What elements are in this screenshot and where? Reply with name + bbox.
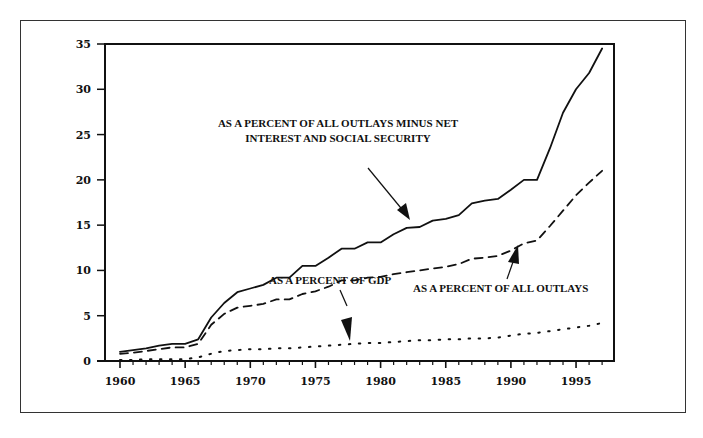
x-tick-label: 1970: [235, 375, 266, 388]
y-tick-label: 20: [76, 174, 92, 187]
y-tick-label: 10: [76, 264, 92, 277]
y-tick-label: 35: [76, 38, 91, 51]
annotation-solid-line2: INTEREST AND SOCIAL SECURITY: [245, 132, 430, 144]
y-tick-label: 25: [76, 129, 91, 142]
arrow-icon: [507, 245, 519, 279]
axes: 0510152025303519601965197019751980198519…: [76, 38, 614, 388]
plot-area: [105, 44, 614, 361]
x-tick-label: 1980: [365, 375, 396, 388]
x-tick-label: 1960: [105, 375, 136, 388]
line-chart: 0510152025303519601965197019751980198519…: [0, 0, 703, 438]
y-tick-label: 0: [83, 355, 91, 368]
annotation-dotted: AS A PERCENT OF GDP: [269, 274, 392, 286]
y-tick-label: 15: [76, 219, 91, 232]
arrow-icon: [340, 290, 352, 341]
y-tick-label: 30: [76, 83, 92, 96]
x-tick-label: 1985: [430, 375, 461, 388]
annotation-dashed: AS A PERCENT OF ALL OUTLAYS: [413, 282, 588, 294]
y-tick-label: 5: [83, 310, 91, 323]
series-solid-line: [120, 49, 602, 352]
x-tick-label: 1995: [561, 375, 592, 388]
x-tick-label: 1965: [170, 375, 201, 388]
x-tick-label: 1975: [300, 375, 331, 388]
arrow-icon: [368, 168, 410, 220]
annotation-solid-line1: AS A PERCENT OF ALL OUTLAYS MINUS NET: [218, 117, 459, 129]
series-dashed-line: [120, 171, 602, 354]
series-group: [120, 49, 602, 361]
x-tick-label: 1990: [496, 375, 527, 388]
